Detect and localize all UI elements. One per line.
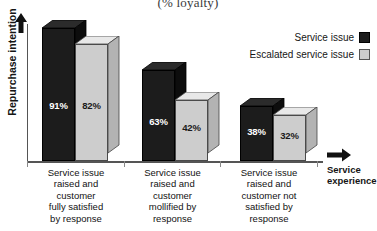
category-label-2: Service issue raised and customer mollif… <box>126 167 219 224</box>
category-label-line: Service issue <box>222 167 316 178</box>
bar-value-label: 82% <box>75 100 108 111</box>
bar-value-label: 42% <box>175 122 208 133</box>
y-axis-title: Repurchase intention <box>6 2 18 122</box>
x-axis-title-line2: experience <box>327 175 377 186</box>
category-label-3: Service issue raised and customer not sa… <box>222 167 316 224</box>
category-label-line: raised and <box>222 178 316 189</box>
bar-group1-service-issue: 91% <box>42 28 75 161</box>
x-axis-title-line1: Service <box>327 164 377 175</box>
legend-item-escalated-service-issue: Escalated service issue <box>190 47 370 62</box>
category-label-line: raised and <box>126 178 219 189</box>
category-label-line: mollified by <box>126 201 219 212</box>
bar-group3-escalated-service-issue: 32% <box>273 115 306 161</box>
category-label-line: customer not <box>222 190 316 201</box>
category-label-line: customer <box>29 190 123 201</box>
legend-swatch-light-icon <box>359 49 370 60</box>
legend-label: Escalated service issue <box>250 49 355 60</box>
x-axis-title: Service experience <box>327 164 377 186</box>
category-separator <box>124 161 125 167</box>
chart-title: (% loyalty) <box>0 0 376 11</box>
bar-group2-service-issue: 63% <box>142 70 175 161</box>
bar-value-label: 38% <box>240 126 273 137</box>
bar-front-face <box>42 28 75 161</box>
category-separator <box>317 161 318 167</box>
legend-label: Service issue <box>295 32 354 43</box>
category-separator <box>27 161 28 167</box>
arrow-right-icon <box>327 148 351 162</box>
category-label-1: Service issue raised and customer fully … <box>29 167 123 224</box>
x-axis-line <box>27 161 323 163</box>
category-axis-labels: Service issue raised and customer fully … <box>27 167 323 229</box>
bar-value-label: 32% <box>273 130 306 141</box>
bar-group1-escalated-service-issue: 82% <box>75 44 108 161</box>
legend-swatch-dark-icon <box>359 32 370 43</box>
category-label-line: response <box>222 213 316 224</box>
category-label-line: Service issue <box>29 167 123 178</box>
category-label-line: Service issue <box>126 167 219 178</box>
category-label-line: by response <box>29 213 123 224</box>
legend-item-service-issue: Service issue <box>190 30 370 45</box>
category-label-line: satisfied by <box>222 201 316 212</box>
bar-value-label: 63% <box>142 116 175 127</box>
category-separator <box>220 161 221 167</box>
y-axis-line <box>27 24 28 162</box>
bar-group2-escalated-service-issue: 42% <box>175 100 208 161</box>
bar-value-label: 91% <box>42 100 75 111</box>
legend: Service issue Escalated service issue <box>190 30 370 64</box>
category-label-line: customer <box>126 190 219 201</box>
category-label-line: response <box>126 213 219 224</box>
category-label-line: fully satisfied <box>29 201 123 212</box>
bar-group3-service-issue: 38% <box>240 106 273 161</box>
category-label-line: raised and <box>29 178 123 189</box>
